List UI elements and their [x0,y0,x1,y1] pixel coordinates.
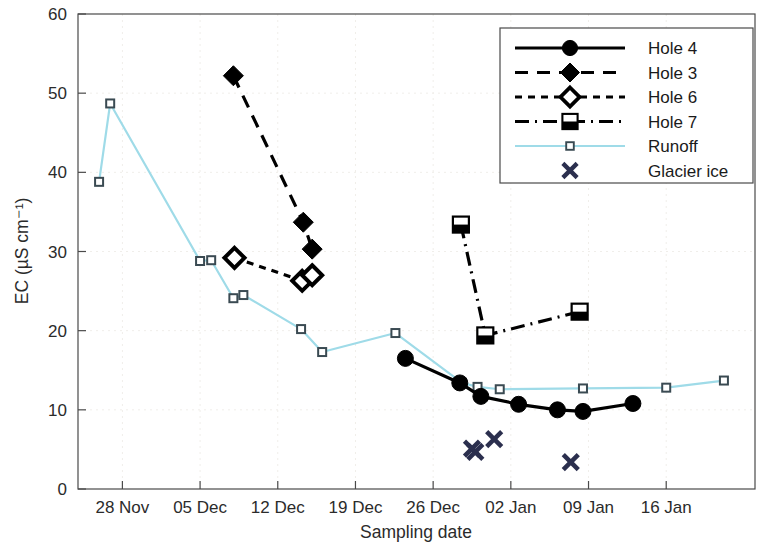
x-tick-label: 28 Nov [95,498,149,517]
marker-square-fill [477,335,493,343]
marker-small-square [196,257,204,265]
marker-small-square [106,99,114,107]
marker-small-square [662,384,670,392]
x-tick-label: 09 Jan [563,498,614,517]
legend: Hole 4Hole 3Hole 6Hole 7RunoffGlacier ic… [500,28,753,183]
marker-filled-circle [625,396,641,412]
legend-label: Hole 3 [648,64,697,83]
x-axis-title: Sampling date [360,522,472,542]
y-tick-label: 30 [48,243,67,262]
marker-filled-circle [452,375,468,391]
legend-border [500,28,753,183]
x-tick-label: 12 Dec [251,498,305,517]
marker-small-square [318,348,326,356]
marker-square-fill [453,225,469,233]
marker-small-square [239,291,247,299]
marker-square-fill [572,312,588,320]
marker-filled-circle [549,402,565,418]
marker-small-square [720,377,728,385]
marker-small-square [496,385,504,393]
chart-canvas: 0102030405060 28 Nov05 Dec12 Dec19 Dec26… [0,0,767,554]
marker-small-square [566,142,574,150]
marker-filled-circle [511,396,527,412]
y-tick-label: 40 [48,163,67,182]
legend-label: Glacier ice [648,162,728,181]
x-tick-label: 26 Dec [406,498,460,517]
y-tick-label: 10 [48,401,67,420]
marker-small-square [229,294,237,302]
legend-label: Hole 7 [648,113,697,132]
marker-small-square [297,325,305,333]
y-tick-label: 20 [48,322,67,341]
marker-square-fill [562,122,577,130]
x-tick-label: 19 Dec [329,498,383,517]
legend-label: Runoff [648,137,698,156]
marker-small-square [579,384,587,392]
x-tick-label: 02 Jan [485,498,536,517]
legend-label: Hole 4 [648,39,697,58]
x-tick-label: 16 Jan [641,498,692,517]
ec-timeseries-chart: 0102030405060 28 Nov05 Dec12 Dec19 Dec26… [0,0,767,554]
marker-filled-circle [575,403,591,419]
marker-small-square [391,329,399,337]
y-axis-title-group: EC (µS cm⁻¹) [12,198,32,305]
marker-filled-circle [562,40,577,55]
y-tick-label: 50 [48,84,67,103]
marker-small-square [207,256,215,264]
marker-filled-circle [473,388,489,404]
y-tick-label: 60 [48,5,67,24]
marker-filled-circle [397,350,413,366]
legend-label: Hole 6 [648,88,697,107]
y-axis-title: EC (µS cm⁻¹) [12,198,32,305]
y-tick-label: 0 [58,480,67,499]
marker-small-square [95,178,103,186]
x-tick-label: 05 Dec [173,498,227,517]
